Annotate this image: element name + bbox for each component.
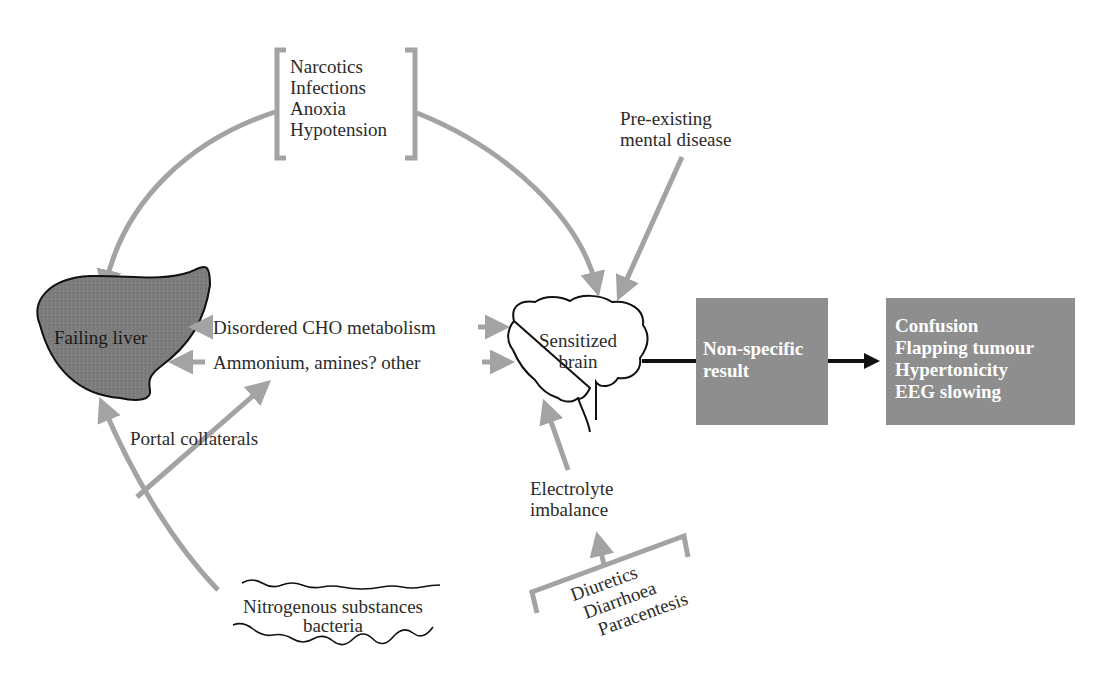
gut-line2: bacteria	[228, 615, 438, 636]
liver-label: Failing liver	[54, 327, 147, 348]
precipitants-list: Narcotics Infections Anoxia Hypotension	[290, 56, 387, 140]
symptom-item: Confusion	[895, 315, 1034, 337]
precipitant-item: Hypotension	[290, 119, 387, 140]
arrow-electrolyte-to-brain	[547, 410, 568, 470]
arrow-preexisting-to-brain	[622, 157, 682, 290]
arrow-precipitants-to-liver	[106, 112, 275, 283]
result-box: Non-specific result	[696, 298, 828, 425]
arrow-causes-to-electrolyte	[599, 543, 604, 565]
symptoms-box: Confusion Flapping tumour Hypertonicity …	[886, 298, 1075, 425]
cho-label: Disordered CHO metabolism	[213, 317, 436, 338]
symptom-item: Hypertonicity	[895, 359, 1034, 381]
pre-existing-label: Pre-existing mental disease	[620, 108, 731, 150]
symptom-item: Flapping tumour	[895, 337, 1034, 359]
result-line1: Non-specific	[703, 338, 803, 360]
brain-label: Sensitized brain	[528, 330, 628, 372]
result-line2: result	[703, 360, 803, 382]
electrolyte-line1: Electrolyte	[530, 478, 613, 499]
gut-label: Nitrogenous substances bacteria	[228, 596, 438, 636]
portal-collaterals-label: Portal collaterals	[130, 428, 258, 449]
electrolyte-line2: imbalance	[530, 499, 613, 520]
gut-line1: Nitrogenous substances	[228, 596, 438, 617]
symptom-item: EEG slowing	[895, 381, 1034, 403]
gut-wave-top	[242, 580, 440, 589]
precipitant-item: Anoxia	[290, 98, 387, 119]
brain-line2: brain	[528, 351, 628, 372]
brain-line1: Sensitized	[528, 330, 628, 351]
precipitant-item: Narcotics	[290, 56, 387, 77]
precipitant-item: Infections	[290, 77, 387, 98]
arrow-precipitants-to-brain	[417, 113, 596, 285]
pre-existing-line1: Pre-existing	[620, 108, 731, 129]
ammonium-label: Ammonium, amines? other	[213, 352, 420, 373]
pre-existing-line2: mental disease	[620, 129, 731, 150]
electrolyte-label: Electrolyte imbalance	[530, 478, 613, 520]
